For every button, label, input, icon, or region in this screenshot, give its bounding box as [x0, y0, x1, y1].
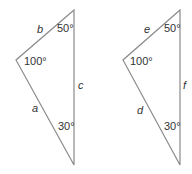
side-f-label: f	[183, 80, 186, 91]
side-e-label: e	[144, 24, 150, 35]
side-d-label: d	[137, 105, 143, 116]
angle-left-2: 100°	[130, 56, 153, 67]
side-c-label: c	[78, 80, 84, 91]
angle-bottom-1: 30°	[58, 121, 75, 132]
angle-left-1: 100°	[24, 56, 47, 67]
angle-top-1: 50°	[57, 23, 74, 34]
side-a-label: a	[32, 103, 38, 114]
angle-bottom-2: 30°	[164, 121, 181, 132]
angle-top-2: 50°	[164, 23, 181, 34]
side-b-label: b	[37, 24, 43, 35]
